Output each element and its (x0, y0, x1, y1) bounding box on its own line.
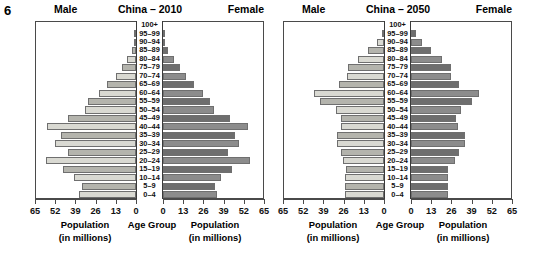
x-tick-labels-2010: 6552392613001326395265 (26, 206, 274, 218)
pyramid-plot-2010: 100+95–9990–9485–8980–8475–7970–7465–696… (26, 21, 274, 199)
male-bars-2010 (35, 21, 136, 199)
axis-tick-65 (35, 199, 36, 204)
x-tick-label-left-0: 0 (126, 206, 146, 216)
bar-female-70-74 (411, 73, 451, 80)
bar-male-10-14 (74, 174, 136, 181)
bar-male-10-14 (345, 174, 384, 181)
male-caption-line2: (in millions) (30, 232, 140, 245)
bar-male-60-64 (314, 90, 384, 97)
age-label-0-4: 0–4 (384, 191, 411, 199)
female-label-2010: Female (228, 3, 264, 15)
female-caption-line1: Population (191, 219, 239, 230)
axis-tick-0 (163, 199, 164, 204)
x-axis-2050 (274, 199, 522, 206)
bar-female-25-29 (163, 149, 228, 156)
bar-male-15-19 (346, 166, 384, 173)
axis-tick-13 (431, 199, 432, 204)
bar-female-95-99 (163, 30, 165, 37)
age-label-25-29: 25–29 (384, 148, 411, 156)
bar-female-40-44 (411, 123, 458, 130)
bar-male-90-94 (377, 39, 384, 46)
x-tick-label-right-52: 52 (234, 206, 254, 216)
x-tick-label-left-65: 65 (25, 206, 45, 216)
axis-tick-52 (492, 199, 493, 204)
x-tick-label-right-65: 65 (254, 206, 274, 216)
x-tick-label-right-26: 26 (441, 206, 461, 216)
bar-male-70-74 (116, 73, 136, 80)
x-tick-label-right-52: 52 (482, 206, 502, 216)
age-label-15-19: 15–19 (136, 165, 163, 173)
male-bars-2050 (283, 21, 384, 199)
bar-female-25-29 (411, 149, 459, 156)
x-tick-label-right-0: 0 (153, 206, 173, 216)
bar-male-25-29 (68, 149, 136, 156)
bar-female-5-9 (163, 183, 215, 190)
age-label-15-19: 15–19 (384, 165, 411, 173)
axis-tick-39 (323, 199, 324, 204)
x-tick-label-left-13: 13 (106, 206, 126, 216)
bar-male-15-19 (63, 166, 136, 173)
bar-female-35-39 (411, 132, 465, 139)
axis-tick-13 (364, 199, 365, 204)
panel-header-2010: Male China – 2010 Female (26, 3, 274, 17)
axis-tick-26 (451, 199, 452, 204)
age-label-100plus: 100+ (136, 21, 163, 29)
bar-female-15-19 (411, 166, 448, 173)
axis-tick-13 (116, 199, 117, 204)
bar-female-80-84 (411, 56, 442, 63)
bar-female-60-64 (163, 90, 203, 97)
axis-tick-52 (55, 199, 56, 204)
axis-tick-65 (264, 199, 265, 204)
x-axis-2010 (26, 199, 274, 206)
bar-female-75-79 (163, 64, 180, 71)
axis-tick-26 (96, 199, 97, 204)
bar-female-15-19 (163, 166, 232, 173)
age-label-5-9: 5–9 (136, 182, 163, 190)
bar-male-75-79 (122, 64, 136, 71)
bar-male-55-59 (320, 98, 384, 105)
bar-male-65-69 (107, 81, 136, 88)
bar-female-10-14 (411, 174, 448, 181)
bar-male-35-39 (337, 132, 384, 139)
panel-china-2050: Male China – 2050 Female 100+95–9990–948… (274, 0, 522, 258)
age-label-5-9: 5–9 (384, 182, 411, 190)
bar-male-70-74 (347, 73, 384, 80)
bar-male-20-24 (343, 157, 384, 164)
age-label-0-4: 0–4 (136, 191, 163, 199)
pyramid-plot-2050: 100+95–9990–9485–8980–8475–7970–7465–696… (274, 21, 522, 199)
x-tick-label-left-52: 52 (293, 206, 313, 216)
bar-female-75-79 (411, 64, 451, 71)
male-caption-line2: (in millions) (278, 232, 388, 245)
captions-2010: Population (in millions) Age Group Popul… (26, 219, 274, 253)
bar-female-55-59 (411, 98, 472, 105)
bar-female-65-69 (163, 81, 194, 88)
axis-rule (283, 199, 384, 200)
axis-tick-65 (283, 199, 284, 204)
x-tick-label-left-0: 0 (374, 206, 394, 216)
axis-tick-39 (75, 199, 76, 204)
bar-male-20-24 (46, 157, 136, 164)
captions-2050: Population (in millions) Age Group Popul… (274, 219, 522, 253)
x-tick-labels-2050: 6552392613001326395265 (274, 206, 522, 218)
x-tick-label-left-52: 52 (45, 206, 65, 216)
figure-number: 6 (4, 3, 11, 18)
bar-male-50-54 (336, 106, 384, 113)
bar-male-0-4 (345, 191, 384, 198)
bar-male-50-54 (85, 106, 136, 113)
axis-tick-65 (512, 199, 513, 204)
bar-female-50-54 (163, 106, 214, 113)
panel-header-2050: Male China – 2050 Female (274, 3, 522, 17)
axis-tick-0 (411, 199, 412, 204)
bar-male-65-69 (339, 81, 384, 88)
bar-male-40-44 (47, 123, 136, 130)
axis-tick-39 (224, 199, 225, 204)
x-tick-label-left-26: 26 (334, 206, 354, 216)
female-caption-line2: (in millions) (160, 232, 270, 245)
bar-male-5-9 (345, 183, 384, 190)
female-bars-2010 (163, 21, 264, 199)
bar-female-10-14 (163, 174, 221, 181)
age-label-100plus: 100+ (384, 21, 411, 29)
male-caption-line1: Population (309, 219, 357, 230)
bar-female-0-4 (411, 191, 448, 198)
bar-female-65-69 (411, 81, 459, 88)
